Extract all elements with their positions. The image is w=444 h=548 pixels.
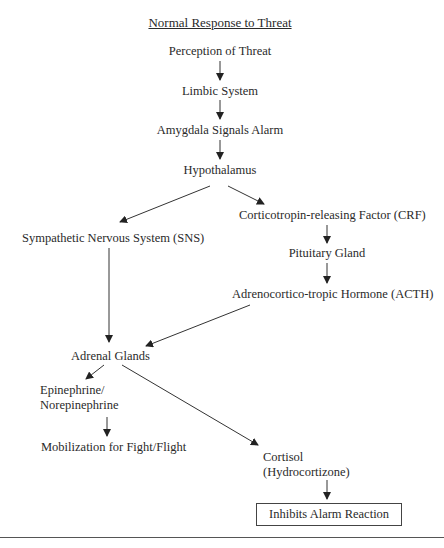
arrow-hypothalamus-sns — [120, 186, 210, 222]
arrow-adrenal-cortisol — [122, 365, 258, 445]
arrows-layer — [0, 0, 444, 548]
bottom-rule — [0, 537, 444, 538]
arrow-adrenal-epinephrine — [86, 365, 104, 379]
arrow-hypothalamus-crf — [228, 186, 264, 204]
arrow-acth-adrenal — [146, 305, 250, 346]
